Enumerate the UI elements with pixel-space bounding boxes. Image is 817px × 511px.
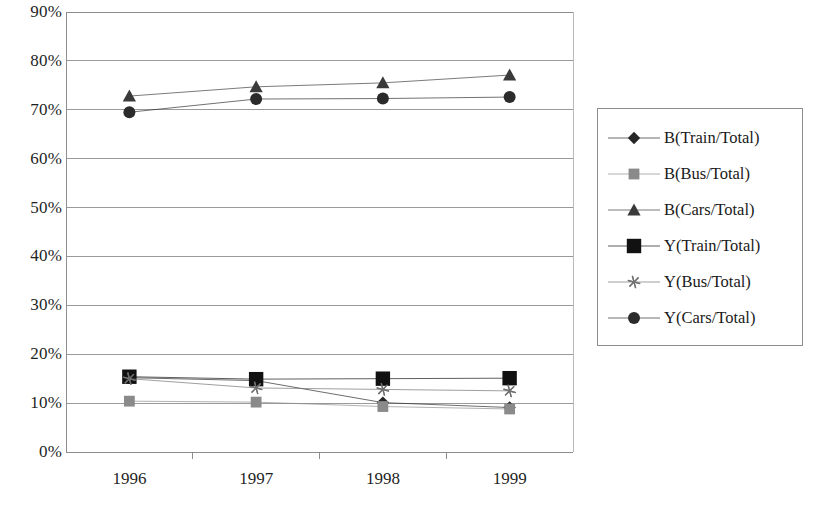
x-axis-tick-label: 1996 [89, 470, 169, 487]
legend-label: B(Cars/Total) [664, 200, 755, 219]
legend: B(Train/Total)B(Bus/Total)B(Cars/Total)Y… [597, 108, 803, 346]
legend-label: Y(Bus/Total) [664, 272, 751, 291]
legend-item[interactable]: Y(Cars/Total) [598, 303, 804, 333]
legend-marker-icon [606, 231, 662, 261]
legend-label: Y(Cars/Total) [664, 308, 755, 327]
legend-label: Y(Train/Total) [664, 236, 760, 255]
legend-marker-icon [606, 303, 662, 333]
legend-item[interactable]: Y(Train/Total) [598, 231, 804, 261]
legend-label: B(Train/Total) [664, 128, 759, 147]
x-axis-tick-label: 1998 [343, 470, 423, 487]
legend-marker-icon [606, 159, 662, 189]
legend-item[interactable]: Y(Bus/Total) [598, 267, 804, 297]
legend-marker-icon [606, 195, 662, 225]
legend-label: B(Bus/Total) [664, 164, 750, 183]
legend-marker-icon [606, 267, 662, 297]
legend-item[interactable]: B(Cars/Total) [598, 195, 804, 225]
x-axis-tick-label: 1997 [216, 470, 296, 487]
legend-item[interactable]: B(Train/Total) [598, 123, 804, 153]
x-axis-tick-label: 1999 [470, 470, 550, 487]
line-chart: 0%10%20%30%40%50%60%70%80%90% 1996199719… [0, 0, 817, 511]
legend-marker-icon [606, 123, 662, 153]
legend-item[interactable]: B(Bus/Total) [598, 159, 804, 189]
